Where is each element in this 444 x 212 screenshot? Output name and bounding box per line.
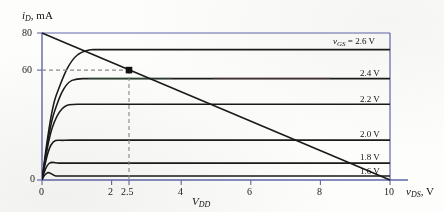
x-axis-title: vDS, V — [406, 186, 434, 199]
curve-vgs-1p8 — [42, 162, 390, 180]
figure-canvas: iD, mA 80 60 0 0 2 2.5 4 6 8 10 vDS, V V… — [0, 0, 444, 212]
vdd-label-var: V — [192, 195, 199, 207]
x-axis-title-sub: DS — [411, 190, 421, 199]
x-tick-2p5: 2.5 — [121, 187, 134, 197]
y-tick-60: 60 — [22, 65, 32, 75]
curve-label-vgs-2p2: 2.2 V — [360, 95, 380, 104]
x-tick-0: 0 — [39, 187, 44, 197]
characteristic-curves — [42, 50, 390, 180]
plot-frame — [42, 33, 408, 180]
curve-vgs-1p6 — [42, 173, 390, 180]
curve-vgs-2p4 — [42, 79, 390, 180]
x-axis-title-unit: , V — [421, 185, 434, 197]
curve-label-vgs-1p6: 1.6 V — [360, 167, 380, 176]
x-tick-10: 10 — [384, 187, 394, 197]
x-axis-ticks — [42, 180, 390, 185]
y-tick-80: 80 — [22, 28, 32, 38]
y-axis-ticks — [37, 33, 42, 180]
curve-label-prefix-sub: GS — [337, 40, 346, 48]
x-tick-4: 4 — [178, 187, 183, 197]
x-tick-2: 2 — [108, 187, 113, 197]
vdd-label-sub: DD — [199, 200, 211, 209]
curve-vgs-2p0 — [42, 140, 390, 180]
vdd-axis-label: VDD — [192, 196, 210, 209]
x-tick-6: 6 — [247, 187, 252, 197]
curve-label-value: 2.6 V — [355, 36, 375, 46]
operating-point-marker — [126, 67, 133, 74]
y-axis-title: iD, mA — [22, 10, 53, 23]
curve-vgs-2p2 — [42, 104, 390, 180]
curve-vgs-2p6 — [42, 50, 390, 180]
iv-characteristics-plot — [0, 0, 444, 212]
load-line — [42, 33, 390, 180]
curve-label-vgs-2p6: vGS = 2.6 V — [333, 37, 375, 48]
y-tick-0: 0 — [30, 174, 35, 184]
curve-label-eq: = — [346, 36, 356, 46]
y-axis-title-unit: , mA — [31, 9, 53, 21]
curve-label-vgs-2p0: 2.0 V — [360, 130, 380, 139]
x-tick-8: 8 — [317, 187, 322, 197]
curve-label-vgs-1p8: 1.8 V — [360, 153, 380, 162]
curve-label-vgs-2p4: 2.4 V — [360, 69, 380, 78]
